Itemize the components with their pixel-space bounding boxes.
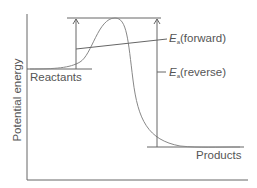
reverse-text: (reverse) — [180, 66, 226, 78]
forward-text: (forward) — [180, 32, 226, 44]
ea-forward-label: Ea(forward) — [169, 32, 226, 45]
energy-diagram: Reactants Products Ea(forward) Ea(revers… — [0, 0, 257, 188]
ea-reverse-label: Ea(reverse) — [169, 66, 226, 79]
reactants-label: Reactants — [30, 71, 82, 83]
y-axis-label: Potential energy — [11, 58, 23, 141]
forward-leader — [76, 39, 167, 49]
products-label: Products — [196, 149, 242, 161]
